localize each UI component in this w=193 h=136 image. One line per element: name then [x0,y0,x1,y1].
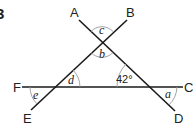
label-angle-a: a [165,87,171,101]
line-AD [79,20,175,111]
label-angle-42: 42° [116,73,133,85]
label-point-C: C [184,80,193,95]
label-angle-c: c [99,23,105,37]
label-angle-e: e [33,88,39,102]
label-point-B: B [126,5,135,20]
label-angle-d: d [68,73,75,87]
line-BE [31,20,127,110]
label-point-E: E [23,111,32,126]
geometry-diagram: 3 A B C D E F c b d 42° e a [0,0,193,136]
label-point-D: D [174,111,183,126]
arc-angle-d [73,70,80,87]
label-angle-b: b [99,47,105,61]
label-point-F: F [13,80,21,95]
label-point-A: A [70,5,79,20]
question-number: 3 [0,5,4,22]
